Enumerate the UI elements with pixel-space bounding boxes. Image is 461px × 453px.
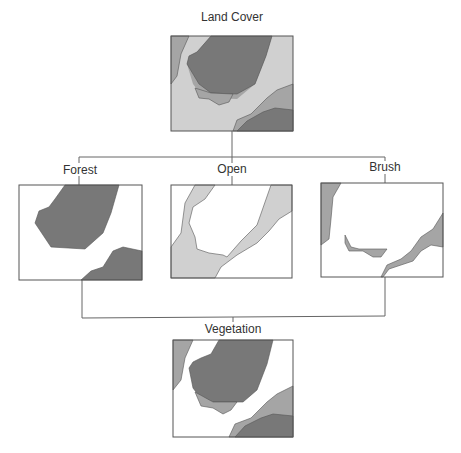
map-brush (321, 183, 443, 277)
label-land-cover: Land Cover (172, 10, 292, 24)
map-vegetation (173, 340, 293, 437)
label-brush: Brush (325, 160, 445, 174)
label-open: Open (172, 162, 292, 176)
label-forest: Forest (20, 163, 140, 177)
map-land-cover (171, 36, 293, 131)
land-cover-diagram: Land Cover Forest Open Brush Vegetation (0, 0, 461, 453)
label-vegetation: Vegetation (173, 322, 293, 336)
diagram-canvas (0, 0, 461, 453)
map-open (171, 185, 292, 278)
map-forest (19, 185, 142, 280)
